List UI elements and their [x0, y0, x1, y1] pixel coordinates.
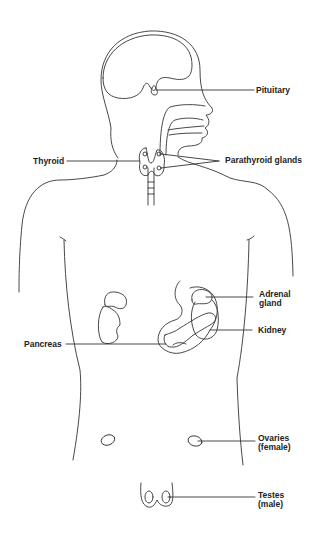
parathyroid-label: Parathyroid glands [225, 156, 302, 165]
oral-cavity [166, 118, 203, 155]
brain-outline [103, 35, 192, 99]
ovary-left [100, 433, 117, 447]
kidney-left [98, 306, 120, 343]
parathyroid-gland [143, 165, 147, 169]
pancreas-label: Pancreas [24, 340, 62, 349]
parathyroid-leader-2 [161, 161, 219, 168]
left-shoulder-outline [19, 160, 117, 292]
adrenal-gland-left [105, 292, 127, 309]
body-outline-drawing [0, 0, 317, 536]
testes-label-line2: (male) [258, 500, 283, 509]
endocrine-diagram: Pituitary Thyroid Parathyroid glands Adr… [0, 0, 317, 536]
right-shoulder-outline [178, 157, 293, 276]
kidney-label: Kidney [258, 326, 286, 335]
left-torso-side [64, 240, 81, 460]
pancreas [164, 313, 216, 347]
right-armpit [247, 236, 254, 240]
parathyroid-gland [157, 166, 161, 170]
parathyroid-gland [143, 152, 147, 156]
parathyroid-leader-1 [161, 154, 219, 161]
adrenal-label-line2: gland [259, 299, 282, 308]
thyroid-label: Thyroid [33, 157, 64, 166]
left-armpit [60, 237, 66, 241]
testis-left [145, 491, 153, 503]
right-torso-side [237, 240, 249, 465]
ovaries-label-line2: (female) [258, 443, 291, 452]
pituitary-label: Pituitary [256, 86, 290, 95]
thyroid-gland [139, 148, 164, 176]
